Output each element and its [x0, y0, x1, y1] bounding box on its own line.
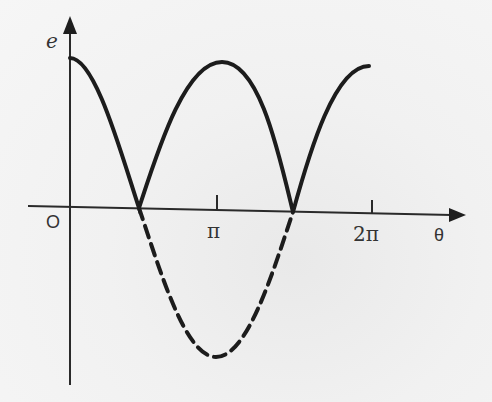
x-axis-label: θ: [434, 225, 444, 245]
tick-label-pi: π: [207, 219, 220, 243]
x-axis: [28, 206, 452, 215]
y-axis-arrow-icon: [63, 16, 77, 34]
x-axis-arrow-icon: [449, 208, 466, 222]
y-axis-label: e: [46, 29, 58, 53]
solid-wave: [70, 58, 369, 212]
origin-label: O: [46, 212, 60, 232]
rectified-wave-diagram: e O π 2π θ: [0, 0, 492, 402]
diagram-canvas: e O π 2π θ: [0, 0, 492, 402]
tick-label-2pi: 2π: [353, 222, 379, 246]
